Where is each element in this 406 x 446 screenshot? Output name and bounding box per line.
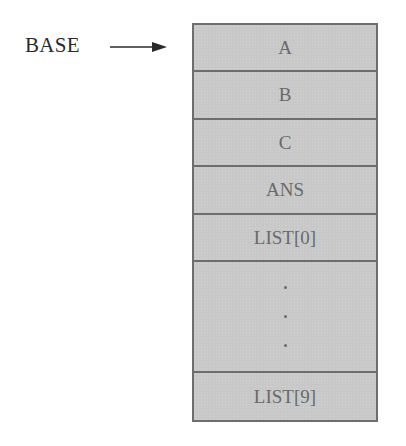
- cell-label: C: [279, 132, 292, 154]
- memory-cell-ans: ANS: [194, 167, 376, 215]
- cell-label: A: [278, 37, 292, 59]
- ellipsis-dot-icon: [284, 286, 287, 289]
- memory-cell-list-0: LIST[0]: [194, 215, 376, 262]
- memory-stack: A B C ANS LIST[0] LIST[9]: [192, 23, 378, 422]
- cell-label: LIST[0]: [254, 227, 316, 249]
- memory-cell-a: A: [194, 25, 376, 72]
- right-arrow-icon: [110, 40, 168, 54]
- memory-cell-b: B: [194, 72, 376, 120]
- base-pointer-label: BASE: [25, 33, 80, 58]
- cell-label: ANS: [266, 179, 304, 201]
- ellipsis-dot-icon: [284, 344, 287, 347]
- cell-label: LIST[9]: [254, 386, 316, 408]
- memory-cell-list-9: LIST[9]: [194, 373, 376, 420]
- memory-cell-c: C: [194, 120, 376, 167]
- ellipsis-dot-icon: [284, 315, 287, 318]
- memory-cell-ellipsis: [194, 262, 376, 373]
- cell-label: B: [279, 84, 292, 106]
